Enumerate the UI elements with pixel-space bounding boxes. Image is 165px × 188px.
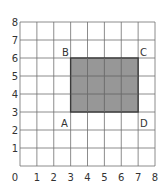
coordinate-grid-diagram: 01234567812345678 A B C D [0, 0, 165, 188]
x-tick-label: 6 [118, 172, 124, 183]
vertex-label-c: C [140, 47, 147, 58]
y-tick-label: 7 [12, 35, 18, 46]
x-tick-label: 0 [12, 172, 18, 183]
y-tick-label: 3 [12, 107, 18, 118]
y-tick-label: 2 [12, 125, 18, 136]
x-tick-label: 4 [84, 172, 90, 183]
x-tick-label: 8 [152, 172, 158, 183]
x-tick-label: 7 [135, 172, 141, 183]
y-tick-label: 8 [12, 17, 18, 28]
vertex-label-a: A [61, 118, 68, 129]
y-tick-label: 4 [12, 89, 18, 100]
y-tick-label: 5 [12, 71, 18, 82]
x-tick-label: 2 [51, 172, 57, 183]
vertex-label-d: D [140, 118, 148, 129]
x-tick-label: 1 [34, 172, 40, 183]
vertex-label-b: B [62, 47, 69, 58]
x-tick-label: 3 [67, 172, 73, 183]
y-tick-label: 1 [12, 143, 18, 154]
x-tick-label: 5 [101, 172, 107, 183]
y-tick-label: 6 [12, 53, 18, 64]
